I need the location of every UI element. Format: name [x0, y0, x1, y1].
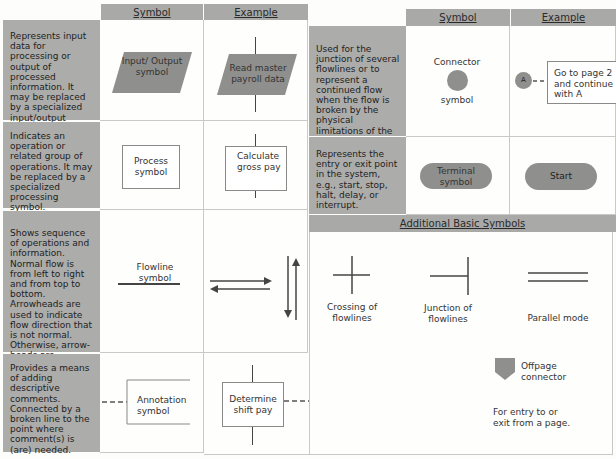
flowline-icon	[118, 283, 180, 285]
crossing-flowlines-icon	[332, 255, 372, 295]
row-terminal-description: Represents the entry or exit point in th…	[309, 137, 406, 214]
connector-example-circle: A	[515, 72, 532, 89]
vertical-arrows-icon	[282, 254, 302, 322]
row-io-description: Represents input data for processing or …	[3, 20, 100, 120]
header-label: Example	[234, 7, 277, 18]
header-label: Example	[542, 12, 585, 23]
annotation-example-label: Determine shift pay	[222, 394, 284, 415]
row-process-description: Indicates an operation or related group …	[3, 122, 100, 208]
connector-label-bottom: symbol	[420, 95, 494, 106]
row-connector-description: Used for the junction of several flowlin…	[309, 26, 406, 136]
parallel-mode-icon	[526, 270, 590, 284]
right-header-symbol: Symbol	[406, 9, 510, 26]
header-label: Symbol	[439, 12, 476, 23]
additional-title: Additional Basic Symbols	[400, 218, 526, 229]
junction-flowlines-label: Junction of flowlines	[418, 303, 478, 324]
offpage-connector-note: For entry to or exit from a page.	[493, 407, 573, 428]
junction-flowlines-icon	[428, 256, 470, 296]
process-example-label: Calculate gross pay	[237, 151, 283, 172]
flowline-symbol-label: Flowline symbol	[130, 262, 180, 283]
io-symbol-label: Input/ Output symbol	[117, 56, 187, 77]
header-label: Symbol	[133, 7, 170, 18]
process-symbol-label: Process symbol	[122, 156, 180, 177]
horizontal-arrows-icon	[208, 272, 274, 296]
io-example-label: Read master payroll data	[222, 63, 294, 84]
left-header-symbol: Symbol	[101, 4, 203, 21]
crossing-flowlines-label: Crossing of flowlines	[322, 302, 382, 323]
terminal-symbol-label: Terminal symbol	[420, 166, 492, 187]
connector-example-note: Go to page 2 and continue with A	[554, 68, 616, 100]
parallel-mode-label: Parallel mode	[520, 313, 596, 324]
right-header-example: Example	[511, 9, 616, 26]
offpage-connector-icon	[494, 357, 516, 381]
connector-circle-icon	[447, 70, 468, 91]
additional-symbols-header: Additional Basic Symbols	[309, 215, 616, 232]
connector-label-top: Connector	[420, 57, 494, 68]
offpage-connector-label: Offpage connector	[521, 361, 581, 382]
left-header-example: Example	[204, 4, 308, 21]
row-annotation-description: Provides a means of adding descriptive c…	[3, 354, 100, 452]
terminal-example-start: Start	[525, 163, 597, 190]
annotation-symbol-label: Annotation symbol	[137, 395, 197, 416]
row-flowline-description: Shows sequence of operations and informa…	[3, 211, 100, 352]
